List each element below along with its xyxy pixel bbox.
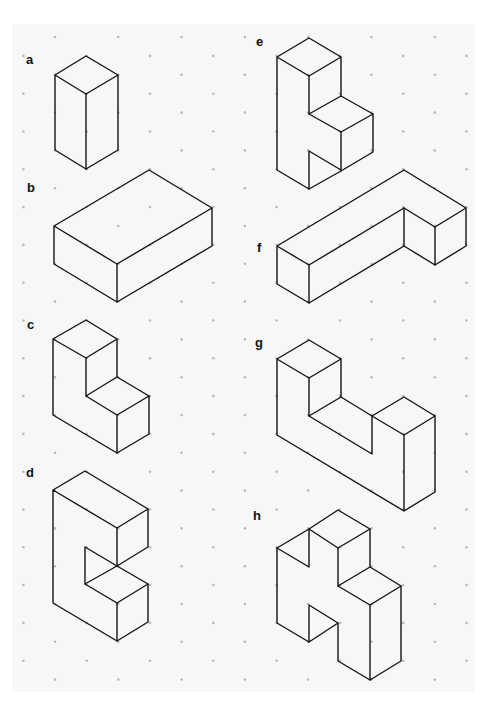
figure-e-shape xyxy=(277,38,373,189)
figure-a-shape xyxy=(55,56,118,169)
figure-f-shape xyxy=(277,170,466,303)
figure-b-shape xyxy=(54,170,212,302)
figure-c-shape xyxy=(53,320,149,453)
figure-label-h: h xyxy=(253,509,261,522)
isometric-dot-grid xyxy=(22,36,468,681)
figure-g-shape xyxy=(277,340,435,511)
isometric-drawing-canvas xyxy=(0,0,490,706)
figure-h-shape xyxy=(277,510,401,680)
figure-label-c: c xyxy=(27,318,34,331)
figure-label-e: e xyxy=(256,35,263,48)
figure-d-shape xyxy=(53,471,148,641)
figure-label-f: f xyxy=(257,241,261,254)
figure-label-g: g xyxy=(255,336,263,349)
figure-label-d: d xyxy=(26,466,34,479)
figure-label-b: b xyxy=(27,181,35,194)
figure-label-a: a xyxy=(26,53,33,66)
